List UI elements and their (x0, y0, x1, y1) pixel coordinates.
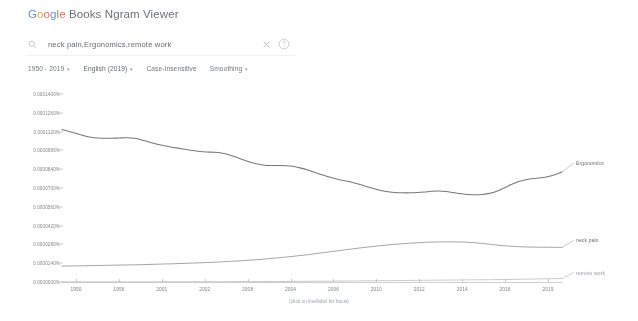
chevron-down-icon: ▾ (245, 66, 248, 72)
search-underline (26, 55, 296, 56)
case-insensitive-label: Case-Insensitive (146, 65, 196, 72)
logo-letter: G (28, 8, 37, 20)
series-leader-line (562, 273, 574, 279)
chart-controls: 1950 - 2019 ▾ English (2019) ▾ Case-Inse… (28, 63, 261, 73)
series-leader-line (562, 240, 574, 247)
chevron-down-icon: ▾ (67, 66, 70, 72)
corpus-selector[interactable]: English (2019) ▾ (83, 65, 133, 72)
corpus-label: English (2019) (83, 65, 127, 72)
case-insensitive-toggle[interactable]: Case-Insensitive (146, 65, 196, 72)
page-title: Google Books Ngram Viewer (28, 8, 179, 20)
chart-plot-area[interactable] (0, 88, 638, 321)
chart-line-remote-work[interactable] (62, 279, 562, 282)
search-input[interactable] (48, 38, 278, 51)
chart-line-neck-pain[interactable] (62, 242, 562, 266)
series-label-neck-pain[interactable]: neck pain (576, 237, 599, 243)
ngram-chart[interactable]: 0.0001400%0.0001260%0.0001120%0.0000980%… (0, 88, 638, 321)
google-logo: Google (28, 8, 66, 20)
smoothing-selector[interactable]: Smoothing ▾ (210, 65, 249, 72)
chart-line-ergonomics[interactable] (62, 130, 562, 195)
search-icon (28, 40, 37, 49)
help-circle-icon[interactable] (278, 38, 290, 50)
chart-caption: (click on line/label for focus) (289, 299, 349, 304)
series-label-remote-work[interactable]: remote work (576, 270, 605, 276)
chevron-down-icon: ▾ (130, 66, 133, 72)
close-icon[interactable] (262, 40, 271, 49)
year-range-selector[interactable]: 1950 - 2019 ▾ (28, 65, 70, 72)
year-range-label: 1950 - 2019 (28, 65, 64, 72)
smoothing-label: Smoothing (210, 65, 242, 72)
series-leader-line (562, 163, 574, 172)
app-title-text: Books Ngram Viewer (66, 8, 179, 20)
series-label-ergonomics[interactable]: Ergonomics (576, 160, 604, 166)
search-bar[interactable] (28, 38, 296, 53)
